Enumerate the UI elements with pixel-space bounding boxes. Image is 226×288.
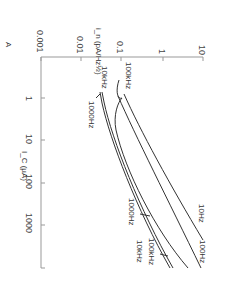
svg-text:0.01: 0.01 (75, 36, 85, 54)
svg-text:100Hz: 100Hz (198, 240, 207, 263)
y-ticks: 0.001 0.01 0.1 1 10 (35, 30, 207, 61)
x-ticks: 1 10 100 1000 (24, 96, 45, 268)
svg-text:100kHz: 100kHz (147, 238, 156, 265)
svg-text:1000: 1000 (24, 213, 34, 233)
svg-text:0.001: 0.001 (35, 30, 45, 53)
svg-text:0.1: 0.1 (115, 41, 125, 54)
noise-chart: A i_n (pA/Hz½) 0.001 0.01 0.1 1 10 1 10 … (0, 0, 226, 288)
svg-text:1: 1 (24, 96, 34, 101)
svg-text:10kHz: 10kHz (100, 66, 109, 89)
svg-text:1000Hz: 1000Hz (127, 198, 136, 226)
svg-text:1: 1 (157, 49, 167, 54)
svg-text:1000Hz: 1000Hz (87, 101, 96, 129)
svg-text:10Hz: 10Hz (197, 204, 206, 223)
panel-label: A (4, 42, 13, 48)
curve-labels: 100kHz 10kHz 1000Hz 10Hz 100Hz 1000Hz 10… (87, 62, 207, 265)
svg-text:100kHz: 100kHz (124, 62, 133, 89)
x-axis-title: I_C (µA) (20, 151, 29, 181)
svg-text:10: 10 (197, 45, 207, 55)
svg-text:10: 10 (24, 134, 34, 144)
svg-text:10kHz: 10kHz (135, 240, 144, 263)
